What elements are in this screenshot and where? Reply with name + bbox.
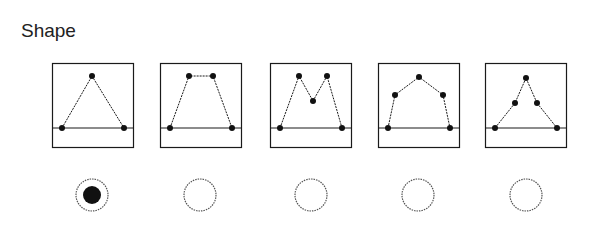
vertex-dot	[310, 98, 316, 104]
vertex-dot	[523, 75, 529, 81]
shape-options	[0, 0, 594, 231]
vertex-dot	[277, 125, 283, 131]
shape-option-peaked-triangle[interactable]	[486, 64, 567, 148]
radio-option-1[interactable]	[76, 179, 108, 211]
shape-box	[271, 64, 352, 148]
vertex-dot	[121, 125, 127, 131]
radio-circle[interactable]	[295, 179, 327, 211]
vertex-dot	[210, 73, 216, 79]
radio-circle[interactable]	[184, 179, 216, 211]
vertex-dot	[534, 100, 540, 106]
vertex-dot	[512, 100, 518, 106]
vertex-dot	[554, 125, 560, 131]
radio-circle[interactable]	[402, 179, 434, 211]
vertex-dot	[324, 73, 330, 79]
radio-selected-dot	[83, 186, 101, 204]
shape-option-trapezoid[interactable]	[161, 64, 242, 148]
radio-option-4[interactable]	[402, 179, 434, 211]
shape-option-triangle[interactable]	[53, 64, 134, 148]
vertex-dot	[186, 73, 192, 79]
vertex-dot	[229, 125, 235, 131]
vertex-dot	[89, 73, 95, 79]
shape-option-m-shape[interactable]	[271, 64, 352, 148]
vertex-dot	[296, 73, 302, 79]
radio-option-3[interactable]	[295, 179, 327, 211]
vertex-dot	[392, 92, 398, 98]
vertex-dot	[59, 125, 65, 131]
radio-option-5[interactable]	[510, 179, 542, 211]
vertex-dot	[440, 92, 446, 98]
radio-option-2[interactable]	[184, 179, 216, 211]
vertex-dot	[167, 125, 173, 131]
shape-option-arch[interactable]	[379, 64, 460, 148]
vertex-dot	[492, 125, 498, 131]
vertex-dot	[416, 74, 422, 80]
radio-circle[interactable]	[510, 179, 542, 211]
vertex-dot	[447, 125, 453, 131]
vertex-dot	[385, 125, 391, 131]
vertex-dot	[339, 125, 345, 131]
